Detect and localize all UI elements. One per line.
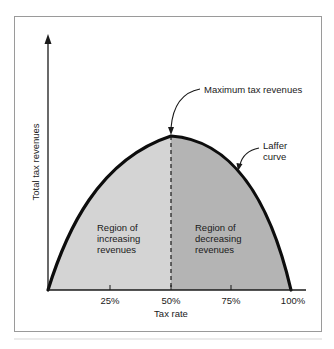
x-tick-label-25: 25% [100, 295, 120, 306]
right-region-label-line2: decreasing [195, 233, 241, 244]
x-tick-label-50: 50% [161, 295, 181, 306]
y-axis-title: Total tax revenues [30, 123, 41, 200]
left-region-label-line2: increasing [97, 233, 140, 244]
x-tick-label-100: 100% [281, 295, 306, 306]
left-region-label-line3: revenues [97, 244, 136, 255]
curve-annotation-line2: curve [263, 151, 286, 162]
x-axis-title: Tax rate [154, 308, 188, 319]
laffer-curve-diagram: 25% 50% 75% 100% Tax rate Total tax reve… [0, 0, 334, 349]
left-region-label-line1: Region of [97, 222, 138, 233]
x-tick-label-75: 75% [221, 295, 241, 306]
right-region-label-line1: Region of [195, 222, 236, 233]
max-revenue-annotation: Maximum tax revenues [204, 84, 302, 95]
curve-annotation-line1: Laffer [263, 140, 287, 151]
right-region-label-line3: revenues [195, 244, 234, 255]
